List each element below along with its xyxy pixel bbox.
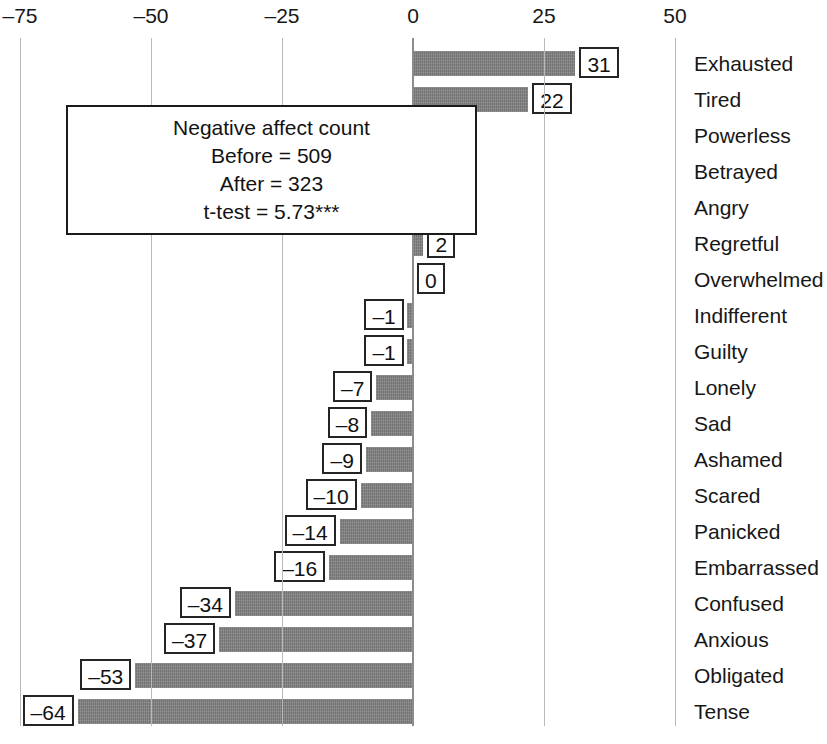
category-label: Regretful xyxy=(694,229,779,259)
bar xyxy=(135,663,413,688)
category-label: Betrayed xyxy=(694,157,778,187)
bar xyxy=(340,519,413,544)
bar-value-label: –1 xyxy=(364,335,403,366)
category-label: Powerless xyxy=(694,121,791,151)
category-label: Guilty xyxy=(694,337,748,367)
x-tick-label-3: 0 xyxy=(407,2,419,30)
bar xyxy=(361,483,413,508)
category-label: Tense xyxy=(694,697,750,727)
bar-value-label: –34 xyxy=(180,587,231,618)
bar xyxy=(235,591,413,616)
annotation-line-before: Before = 509 xyxy=(211,142,332,170)
bar xyxy=(219,627,413,652)
bar-value-label: –9 xyxy=(322,443,361,474)
x-axis-tick-labels: –75–50–2502550 xyxy=(0,0,827,36)
bar xyxy=(376,375,413,400)
category-label: Panicked xyxy=(694,517,780,547)
category-label: Angry xyxy=(694,193,749,223)
category-label: Exhausted xyxy=(694,49,793,79)
category-label: Ashamed xyxy=(694,445,783,475)
annotation-line-title: Negative affect count xyxy=(173,114,370,142)
bar-value-label: –14 xyxy=(285,515,336,546)
category-label: Lonely xyxy=(694,373,756,403)
bar-value-label: –37 xyxy=(164,623,215,654)
category-label: Tired xyxy=(694,85,741,115)
bar-value-label: –64 xyxy=(23,695,74,726)
bar-value-label: –1 xyxy=(364,299,403,330)
annotation-line-ttest: t-test = 5.73*** xyxy=(204,198,340,226)
x-tick-label-5: 50 xyxy=(663,2,686,30)
bar-value-label: –8 xyxy=(328,407,367,438)
category-label-divider xyxy=(675,38,676,726)
x-tick-label-4: 25 xyxy=(532,2,555,30)
category-label: Sad xyxy=(694,409,731,439)
bar xyxy=(329,555,413,580)
category-label: Scared xyxy=(694,481,761,511)
x-tick-label-1: –50 xyxy=(133,2,168,30)
bar-value-label: 31 xyxy=(579,47,618,78)
bar xyxy=(366,447,413,472)
bar xyxy=(78,699,413,724)
annotation-line-after: After = 323 xyxy=(220,170,323,198)
category-label: Obligated xyxy=(694,661,784,691)
bar xyxy=(413,51,575,76)
gridline-4 xyxy=(544,38,545,726)
bar-value-label: 0 xyxy=(417,263,445,294)
annotation-box: Negative affect count Before = 509 After… xyxy=(66,105,477,235)
bar-value-label: 22 xyxy=(532,83,571,114)
category-label: Indifferent xyxy=(694,301,787,331)
x-tick-label-0: –75 xyxy=(2,2,37,30)
negative-affect-bar-chart: –75–50–2502550 31Exhausted22Tired5Powerl… xyxy=(0,0,827,744)
bar-value-label: –53 xyxy=(80,659,131,690)
gridline-0 xyxy=(20,38,21,726)
bar-value-label: –10 xyxy=(306,479,357,510)
category-label: Overwhelmed xyxy=(694,265,824,295)
category-label: Confused xyxy=(694,589,784,619)
bar-value-label: –7 xyxy=(333,371,372,402)
bar xyxy=(371,411,413,436)
x-tick-label-2: –25 xyxy=(264,2,299,30)
category-label: Embarrassed xyxy=(694,553,819,583)
category-label: Anxious xyxy=(694,625,769,655)
